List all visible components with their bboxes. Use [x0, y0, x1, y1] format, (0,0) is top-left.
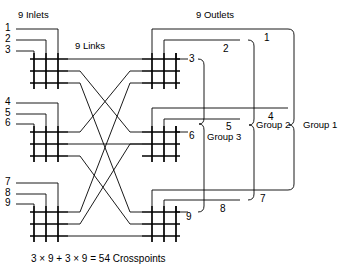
outlet-label-1: 1: [264, 33, 270, 43]
outlet-label-6: 6: [189, 131, 195, 141]
output-matrix-2: [142, 126, 180, 162]
group-1-label: Group 1: [303, 120, 337, 130]
crosspoints-caption: 3 × 9 + 3 × 9 = 54 Crosspoints: [31, 254, 166, 264]
group-2-label: Group 2: [256, 120, 290, 130]
group-3-label: Group 3: [207, 132, 241, 142]
outlet-label-8: 8: [220, 204, 226, 214]
outlets-title: 9 Outlets: [196, 10, 234, 20]
inlet-label-7: 7: [5, 177, 11, 187]
inlets-title: 9 Inlets: [18, 10, 49, 20]
outlet-label-9: 9: [186, 212, 192, 222]
figure-canvas: 9 Inlets 9 Outlets 9 Links 1 2 3 4 5 6 7…: [0, 0, 344, 277]
link-lines: [68, 59, 142, 236]
outlet-label-2: 2: [223, 44, 229, 54]
outlet-label-3: 3: [189, 54, 195, 64]
outlet-label-7: 7: [260, 194, 266, 204]
inlet-label-1: 1: [5, 23, 11, 33]
group-1-bracket: [288, 29, 294, 190]
inlet-label-9: 9: [5, 198, 11, 208]
links-label: 9 Links: [75, 41, 105, 51]
output-matrix-1: [142, 53, 180, 89]
switching-network-diagram: [0, 0, 344, 277]
inlet-leads-group-1: [16, 29, 58, 53]
group-2-bracket: [248, 40, 254, 200]
inlet-leads-group-3: [16, 183, 58, 206]
inlet-label-3: 3: [5, 45, 11, 55]
input-matrix-3: [30, 206, 68, 242]
inlet-label-4: 4: [5, 97, 11, 107]
inlet-leads-group-2: [16, 103, 58, 126]
inlet-label-2: 2: [5, 34, 11, 44]
input-matrix-1: [30, 53, 68, 89]
group-3-bracket: [198, 59, 204, 212]
output-matrix-3: [142, 206, 180, 242]
inlet-label-6: 6: [5, 118, 11, 128]
input-matrix-2: [30, 126, 68, 162]
